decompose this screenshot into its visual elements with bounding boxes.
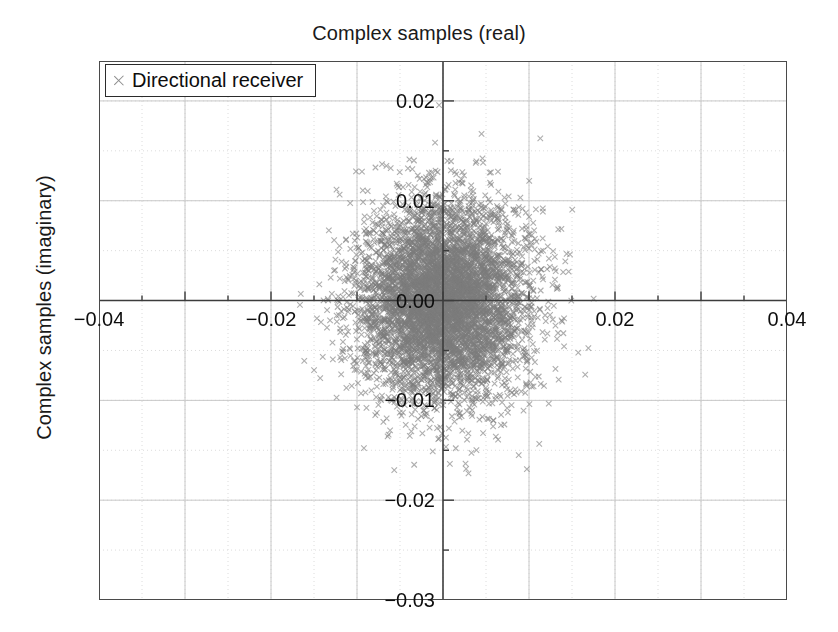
- plot-area: [99, 61, 787, 600]
- x-marker-icon: [112, 74, 125, 87]
- legend-entry-label: Directional receiver: [132, 69, 303, 92]
- y-tick-label: −0.01: [371, 389, 435, 412]
- scatter-points-layer: [99, 61, 787, 600]
- page-title: Complex samples (real): [0, 22, 838, 45]
- y-tick-label: 0.02: [371, 89, 435, 112]
- x-tick-label: 0.04: [768, 308, 807, 331]
- y-tick-label: −0.02: [371, 489, 435, 512]
- x-tick-label: −0.04: [74, 308, 125, 331]
- scatter-plot-figure: Complex samples (real) Complex samples (…: [0, 0, 838, 632]
- y-tick-label: 0.00: [371, 289, 435, 312]
- x-tick-label: 0.02: [596, 308, 635, 331]
- y-axis-label: Complex samples (imaginary): [33, 28, 56, 588]
- y-tick-label: 0.01: [371, 189, 435, 212]
- y-tick-label: −0.03: [371, 589, 435, 612]
- x-tick-label: −0.02: [246, 308, 297, 331]
- legend[interactable]: Directional receiver: [105, 64, 316, 97]
